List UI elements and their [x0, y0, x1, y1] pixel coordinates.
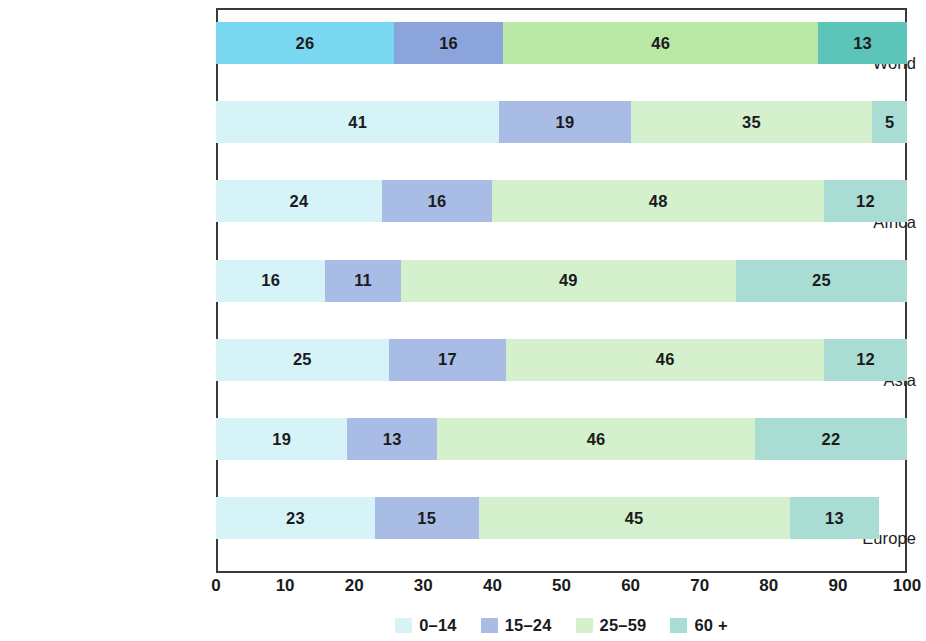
bar-segment: 25 — [736, 260, 907, 302]
bar-segment: 5 — [872, 101, 907, 143]
bar-segment: 48 — [492, 180, 824, 222]
x-tick-label: 60 — [621, 576, 640, 596]
bar-segment: 24 — [216, 180, 382, 222]
bar-segment-value: 46 — [651, 34, 670, 53]
bar-segment: 22 — [755, 418, 907, 460]
legend-swatch — [576, 618, 593, 633]
bar-segment: 15 — [375, 497, 479, 539]
x-tick-label: 80 — [759, 576, 778, 596]
bar-segment: 16 — [382, 180, 493, 222]
bar-segment: 41 — [216, 101, 499, 143]
bar-segment: 12 — [824, 339, 907, 381]
bar-segment-value: 13 — [825, 509, 844, 528]
legend-label: 25–59 — [600, 616, 647, 635]
legend-label: 0–14 — [419, 616, 457, 635]
bar-row: Europe16114925 — [0, 260, 926, 302]
legend-item: 0–14 — [395, 616, 457, 635]
bar-segment-value: 23 — [286, 509, 305, 528]
bar-segment: 46 — [503, 22, 818, 64]
stacked-bar: 19134622 — [216, 418, 907, 460]
bar-row: Latin America and theCaribbean25174612 — [0, 339, 926, 381]
bar-segment-value: 49 — [559, 271, 578, 290]
x-tick-label: 100 — [893, 576, 921, 596]
bar-segment: 19 — [216, 418, 347, 460]
bar-segment-value: 25 — [293, 350, 312, 369]
bar-segment-value: 11 — [354, 271, 372, 290]
bar-segment-value: 16 — [261, 271, 280, 290]
x-tick-label: 30 — [414, 576, 433, 596]
x-tick-label: 0 — [211, 576, 220, 596]
bar-segment: 23 — [216, 497, 375, 539]
bar-segment: 16 — [216, 260, 325, 302]
bar-segment-value: 15 — [417, 509, 436, 528]
bar-segment-value: 12 — [856, 192, 875, 211]
bar-segment-value: 35 — [742, 113, 761, 132]
bar-segment: 17 — [389, 339, 506, 381]
bar-row: Northern America19134622 — [0, 418, 926, 460]
bar-segment: 46 — [506, 339, 824, 381]
bar-segment: 13 — [790, 497, 880, 539]
bar-row: Asia24164812 — [0, 180, 926, 222]
legend-swatch — [481, 618, 498, 633]
legend-label: 60 + — [694, 616, 727, 635]
bar-row: Oceania23154513 — [0, 497, 926, 539]
legend-item: 60 + — [670, 616, 727, 635]
x-axis-tick-labels: 0102030405060708090100 — [216, 576, 907, 602]
bar-row: Africa4119355 — [0, 101, 926, 143]
bar-segment-value: 26 — [296, 34, 315, 53]
bar-segment-value: 12 — [856, 350, 875, 369]
stacked-bar: 25174612 — [216, 339, 907, 381]
x-tick-label: 70 — [690, 576, 709, 596]
bar-segment: 12 — [824, 180, 907, 222]
bar-segment-value: 25 — [812, 271, 831, 290]
bar-segment: 35 — [631, 101, 873, 143]
bar-segment: 26 — [216, 22, 394, 64]
stacked-bar: 4119355 — [216, 101, 907, 143]
x-tick-label: 90 — [828, 576, 847, 596]
legend-swatch — [670, 618, 687, 633]
bar-segment-value: 45 — [625, 509, 644, 528]
bar-segment: 16 — [394, 22, 503, 64]
stacked-bar-chart: World26164613Africa4119355Asia24164812Eu… — [0, 0, 926, 641]
bar-segment-value: 19 — [272, 430, 291, 449]
stacked-bar: 16114925 — [216, 260, 907, 302]
legend-swatch — [395, 618, 412, 633]
x-tick-label: 10 — [276, 576, 295, 596]
x-tick-label: 40 — [483, 576, 502, 596]
bar-segment-value: 17 — [438, 350, 457, 369]
bar-segment-value: 19 — [556, 113, 575, 132]
bar-segment: 11 — [325, 260, 400, 302]
bar-segment-value: 46 — [587, 430, 606, 449]
bar-row: World26164613 — [0, 22, 926, 64]
chart-legend: 0–1415–2425–5960 + — [216, 612, 907, 638]
bar-segment-value: 41 — [348, 113, 367, 132]
bar-segment: 13 — [347, 418, 437, 460]
bar-segment: 25 — [216, 339, 389, 381]
x-tick-label: 50 — [552, 576, 571, 596]
bar-segment-value: 13 — [383, 430, 402, 449]
bar-segment-value: 24 — [290, 192, 309, 211]
bar-segment-value: 48 — [649, 192, 668, 211]
legend-label: 15–24 — [505, 616, 552, 635]
x-tick-label: 20 — [345, 576, 364, 596]
bar-segment-value: 16 — [428, 192, 447, 211]
bar-segment: 45 — [479, 497, 790, 539]
bar-segment-value: 46 — [656, 350, 675, 369]
bar-segment-value: 16 — [439, 34, 458, 53]
bar-segment-value: 22 — [822, 430, 841, 449]
bar-segment: 46 — [437, 418, 755, 460]
stacked-bar: 26164613 — [216, 22, 907, 64]
bar-segment: 49 — [401, 260, 736, 302]
bar-segment: 13 — [818, 22, 907, 64]
stacked-bar: 24164812 — [216, 180, 907, 222]
legend-item: 25–59 — [576, 616, 647, 635]
bar-segment-value: 5 — [885, 113, 894, 132]
stacked-bar: 23154513 — [216, 497, 907, 539]
bar-segment-value: 13 — [853, 34, 872, 53]
bar-segment: 19 — [499, 101, 630, 143]
legend-item: 15–24 — [481, 616, 552, 635]
